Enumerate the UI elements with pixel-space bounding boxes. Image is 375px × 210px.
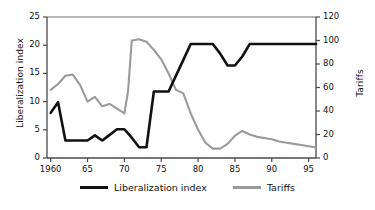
x-tick-label: 95: [294, 164, 324, 174]
data-series-layer: [51, 39, 316, 148]
x-tick-label: 65: [73, 164, 103, 174]
chart-figure: Liberalization index Tariffs 05101520250…: [0, 0, 375, 210]
x-tick-label: 70: [109, 164, 139, 174]
x-tick-label: 1960: [36, 164, 66, 174]
y-left-tick-label: 25: [18, 11, 40, 21]
legend-swatch-liberalization-index: [80, 186, 108, 189]
y-left-tick-label: 0: [18, 152, 40, 162]
axis-frame: [47, 17, 316, 158]
y-left-tick-label: 5: [18, 124, 40, 134]
x-tick-label: 90: [257, 164, 287, 174]
y-left-tick-label: 15: [18, 67, 40, 77]
legend-swatch-tariffs: [233, 186, 261, 189]
y-right-tick-label: 120: [323, 11, 347, 21]
legend-label-liberalization-index: Liberalization index: [114, 182, 207, 193]
y-left-tick-label: 20: [18, 39, 40, 49]
legend-item-liberalization-index: Liberalization index: [80, 182, 207, 193]
y-right-tick-label: 80: [323, 58, 347, 68]
y-right-tick-label: 60: [323, 82, 347, 92]
chart-legend: Liberalization index Tariffs: [0, 182, 375, 193]
y-right-tick-label: 0: [323, 152, 347, 162]
y-left-tick-label: 10: [18, 96, 40, 106]
legend-item-tariffs: Tariffs: [233, 182, 295, 193]
x-tick-label: 80: [183, 164, 213, 174]
series-line-tariffs: [51, 39, 316, 148]
y-right-tick-label: 40: [323, 105, 347, 115]
y-right-tick-label: 20: [323, 129, 347, 139]
x-tick-label: 85: [220, 164, 250, 174]
legend-label-tariffs: Tariffs: [267, 182, 295, 193]
y-right-tick-label: 100: [323, 35, 347, 45]
plot-area: [0, 0, 375, 210]
x-tick-label: 75: [146, 164, 176, 174]
